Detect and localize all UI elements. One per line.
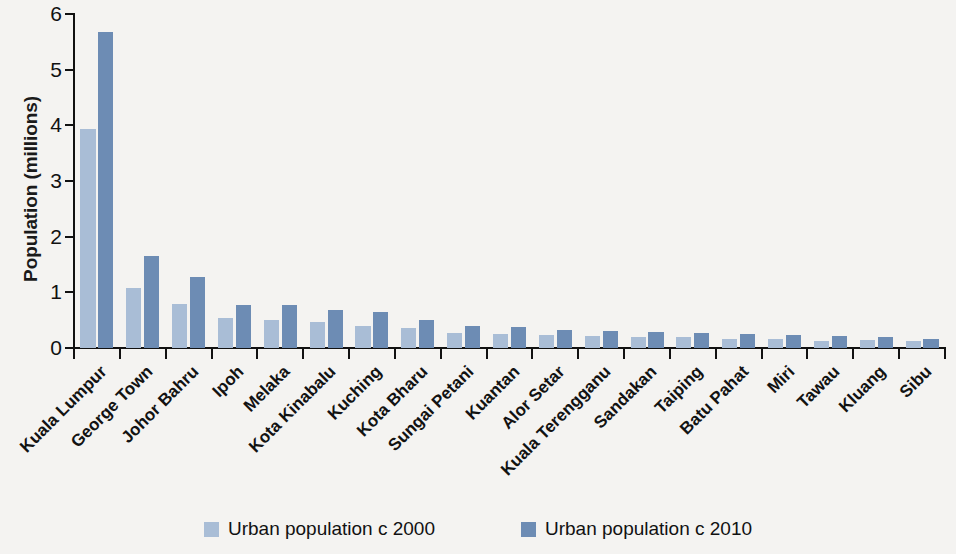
x-axis-label-text: Kota Bharu xyxy=(353,362,432,441)
x-axis-tick xyxy=(898,349,900,359)
bar xyxy=(923,339,938,348)
bar xyxy=(722,339,737,348)
bar xyxy=(511,327,526,348)
y-axis-tick xyxy=(65,124,74,126)
x-axis-tick xyxy=(715,349,717,359)
bar xyxy=(631,337,646,348)
bar xyxy=(585,336,600,348)
legend-label: Urban population c 2010 xyxy=(545,518,752,540)
x-axis-label-text: Johor Bahru xyxy=(117,362,203,448)
x-axis-tick xyxy=(623,349,625,359)
bar xyxy=(264,320,279,348)
legend-item[interactable]: Urban population c 2010 xyxy=(521,518,752,540)
x-axis-tick xyxy=(531,349,533,359)
y-axis-tick-label: 4 xyxy=(36,114,62,135)
y-axis-tick xyxy=(65,236,74,238)
x-axis-label-text: Miri xyxy=(763,362,799,398)
x-axis-tick xyxy=(394,349,396,359)
x-axis-tick xyxy=(761,349,763,359)
x-axis-label-text: Kuantan xyxy=(461,362,523,424)
x-axis-tick xyxy=(73,349,75,359)
bar xyxy=(860,340,875,348)
x-axis-tick xyxy=(119,349,121,359)
x-axis-tick xyxy=(944,349,946,359)
x-axis-label-text: Taiping xyxy=(651,362,707,418)
x-axis-label-text: Melaka xyxy=(240,362,294,416)
bar xyxy=(768,339,783,348)
x-axis-tick xyxy=(256,349,258,359)
bar xyxy=(465,326,480,348)
bar xyxy=(603,331,618,348)
x-axis-label-text: Alor Setar xyxy=(498,362,570,434)
x-axis-label-text: Sungai Petani xyxy=(384,362,478,456)
bar xyxy=(218,318,233,348)
bar xyxy=(557,330,572,348)
bar xyxy=(373,312,388,348)
bar xyxy=(878,337,893,348)
x-axis-tick xyxy=(440,349,442,359)
x-axis-label-text: Batu Pahat xyxy=(676,362,753,439)
bar xyxy=(832,336,847,348)
bar xyxy=(328,310,343,348)
x-axis-tick xyxy=(348,349,350,359)
x-axis-tick xyxy=(577,349,579,359)
x-axis-label-text: Sandakan xyxy=(590,362,661,433)
x-axis-label-text: Kluang xyxy=(835,362,890,417)
y-axis-tick-label: 1 xyxy=(36,281,62,302)
x-axis-label-text: George Town xyxy=(67,362,157,452)
bar xyxy=(786,335,801,348)
chart-legend: Urban population c 2000Urban population … xyxy=(0,518,956,540)
y-axis-tick xyxy=(65,13,74,15)
bar xyxy=(676,337,691,348)
x-axis-label-text: Kuala Lumpur xyxy=(16,362,111,457)
x-axis-tick xyxy=(302,349,304,359)
y-axis-tick xyxy=(65,180,74,182)
bar xyxy=(80,129,95,348)
bar-chart: Population (millions) 0123456 Kuala Lump… xyxy=(0,0,956,554)
legend-label: Urban population c 2000 xyxy=(228,518,435,540)
bar xyxy=(694,333,709,348)
y-axis-tick-label: 2 xyxy=(36,226,62,247)
bar xyxy=(648,332,663,348)
plot-area xyxy=(74,14,945,348)
y-axis-tick-label: 0 xyxy=(36,337,62,358)
x-axis-tick xyxy=(211,349,213,359)
y-axis-tick-label: 3 xyxy=(36,170,62,191)
bar xyxy=(355,326,370,348)
bar xyxy=(310,322,325,348)
x-axis-label-text: Kota Kinabalu xyxy=(245,362,340,457)
legend-item[interactable]: Urban population c 2000 xyxy=(204,518,435,540)
bar xyxy=(419,320,434,348)
x-axis-label-text: Kuala Terengganu xyxy=(497,362,615,480)
x-axis-tick xyxy=(486,349,488,359)
bar xyxy=(493,334,508,348)
bar xyxy=(539,335,554,348)
y-axis-tick-label: 6 xyxy=(36,3,62,24)
bar xyxy=(98,32,113,348)
bar xyxy=(447,333,462,348)
bar xyxy=(126,288,141,348)
bar xyxy=(172,304,187,348)
bar xyxy=(190,277,205,348)
x-axis-label-text: Sibu xyxy=(896,362,936,402)
bar xyxy=(144,256,159,348)
bar xyxy=(282,305,297,348)
bar xyxy=(401,328,416,348)
y-axis-tick xyxy=(65,291,74,293)
x-axis-label-text: Ipoh xyxy=(209,362,249,402)
x-axis-tick xyxy=(852,349,854,359)
x-axis-tick xyxy=(806,349,808,359)
bar xyxy=(906,341,921,348)
x-axis-label-text: Tawau xyxy=(794,362,845,413)
x-axis-label-text: Kuching xyxy=(324,362,386,424)
legend-swatch-icon xyxy=(204,522,219,537)
x-axis-tick xyxy=(669,349,671,359)
bar xyxy=(740,334,755,348)
bar xyxy=(236,305,251,348)
y-axis-tick xyxy=(65,69,74,71)
y-axis-tick-label: 5 xyxy=(36,59,62,80)
bar xyxy=(814,341,829,348)
x-axis-tick xyxy=(165,349,167,359)
legend-swatch-icon xyxy=(521,522,536,537)
